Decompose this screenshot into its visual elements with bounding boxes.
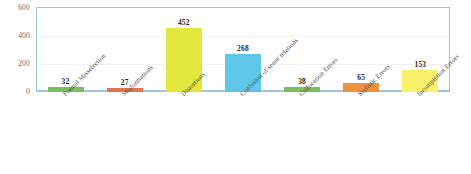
- bar-value-label: 452: [178, 19, 190, 27]
- bar-group-6[interactable]: 153: [391, 7, 450, 92]
- bar-group-2[interactable]: 452: [154, 7, 213, 92]
- y-axis-tick-200: 200: [18, 60, 30, 68]
- x-axis-category-labels: Formal Misselection Misformations Distor…: [36, 93, 450, 174]
- bars-layer: 32 27 452 268 38 65 153: [36, 7, 450, 92]
- y-axis: 600 400 200 0: [0, 4, 33, 92]
- bar-value-label: 65: [357, 74, 365, 82]
- bar-value-label: 153: [414, 61, 426, 69]
- bar-group-0[interactable]: 32: [36, 7, 95, 92]
- y-axis-tick-400: 400: [18, 32, 30, 40]
- bar-chart: 600 400 200 0 32 27 452 268 38: [0, 0, 471, 174]
- y-axis-tick-0: 0: [26, 88, 30, 96]
- bar-value-label: 268: [237, 45, 249, 53]
- bar-group-5[interactable]: 65: [332, 7, 391, 92]
- y-axis-tick-600: 600: [18, 4, 30, 12]
- bar-group-1[interactable]: 27: [95, 7, 154, 92]
- bar-group-3[interactable]: 268: [213, 7, 272, 92]
